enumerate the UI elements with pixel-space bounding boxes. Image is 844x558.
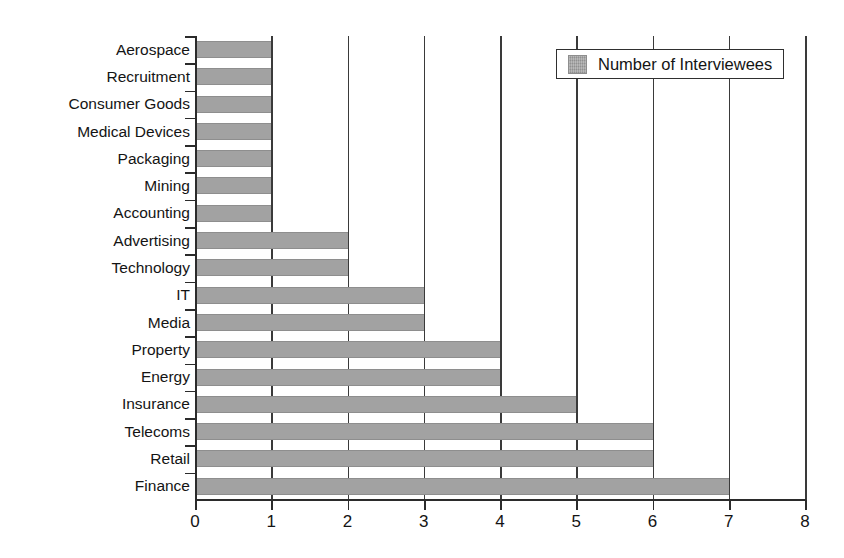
y-axis-label: Consumer Goods <box>20 96 190 112</box>
x-axis-tick <box>348 500 350 510</box>
y-axis-label: Aerospace <box>20 42 190 58</box>
bar-chart: AerospaceRecruitmentConsumer GoodsMedica… <box>0 0 844 558</box>
x-axis-tick-label: 1 <box>251 512 291 532</box>
y-axis-label: Finance <box>20 478 190 494</box>
chart-legend: Number of Interviewees <box>556 49 784 79</box>
y-axis-tick <box>185 364 196 366</box>
x-axis-tick-label: 5 <box>556 512 596 532</box>
y-axis-tick <box>185 473 196 475</box>
x-axis-tick <box>424 500 426 510</box>
y-axis-tick <box>185 391 196 393</box>
y-axis-tick <box>185 36 196 38</box>
bar-row <box>195 445 805 471</box>
y-axis-tick <box>185 282 196 284</box>
bar <box>195 450 653 467</box>
y-axis-label: Retail <box>20 451 190 467</box>
bar-row <box>195 282 805 308</box>
bar <box>195 205 271 222</box>
y-axis-tick <box>185 418 196 420</box>
y-axis-line <box>195 36 197 500</box>
legend-label: Number of Interviewees <box>598 55 772 74</box>
bar <box>195 96 271 113</box>
bar-row <box>195 200 805 226</box>
y-axis-label: Insurance <box>20 396 190 412</box>
x-axis-tick <box>500 500 502 510</box>
y-axis-label: Accounting <box>20 205 190 221</box>
bar-row <box>195 91 805 117</box>
y-axis-tick <box>185 336 196 338</box>
y-axis-tick <box>185 145 196 147</box>
x-axis-tick <box>271 500 273 510</box>
y-axis-tick <box>185 63 196 65</box>
y-axis-tick <box>185 91 196 93</box>
y-axis-tick <box>185 445 196 447</box>
x-axis-tick-label: 0 <box>175 512 215 532</box>
gridline-8 <box>805 36 807 500</box>
y-axis-label: Technology <box>20 260 190 276</box>
bar-row <box>195 227 805 253</box>
x-axis-tick-label: 7 <box>709 512 749 532</box>
bar <box>195 396 576 413</box>
y-axis-label: IT <box>20 287 190 303</box>
plot-area <box>195 36 805 500</box>
y-axis-label: Property <box>20 342 190 358</box>
bar <box>195 369 500 386</box>
bar <box>195 259 348 276</box>
x-axis-tick-label: 2 <box>328 512 368 532</box>
x-axis-tick <box>576 500 578 510</box>
bar-row <box>195 473 805 499</box>
bar <box>195 478 729 495</box>
bar <box>195 314 424 331</box>
bar <box>195 41 271 58</box>
x-axis-tick-label: 8 <box>785 512 825 532</box>
bar-row <box>195 309 805 335</box>
bar <box>195 232 348 249</box>
bar <box>195 123 271 140</box>
x-axis-tick <box>195 500 197 510</box>
y-axis-label: Packaging <box>20 151 190 167</box>
bar-row <box>195 364 805 390</box>
y-axis-label: Energy <box>20 369 190 385</box>
y-axis-label: Mining <box>20 178 190 194</box>
bar <box>195 68 271 85</box>
x-axis-tick-label: 6 <box>633 512 673 532</box>
y-axis-tick <box>185 227 196 229</box>
x-axis-tick <box>729 500 731 510</box>
y-axis-labels: AerospaceRecruitmentConsumer GoodsMedica… <box>8 36 190 500</box>
y-axis-tick <box>185 254 196 256</box>
y-axis-label: Recruitment <box>20 69 190 85</box>
bar-row <box>195 418 805 444</box>
y-axis-label: Telecoms <box>20 424 190 440</box>
legend-swatch-icon <box>568 55 587 74</box>
bar-row <box>195 254 805 280</box>
bar <box>195 177 271 194</box>
bar-row <box>195 172 805 198</box>
x-axis-tick-label: 3 <box>404 512 444 532</box>
y-axis-tick <box>185 172 196 174</box>
y-axis-tick <box>185 309 196 311</box>
bar <box>195 423 653 440</box>
x-axis-tick <box>805 500 807 510</box>
bar <box>195 341 500 358</box>
y-axis-label: Media <box>20 315 190 331</box>
y-axis-label: Medical Devices <box>20 124 190 140</box>
bar-row <box>195 145 805 171</box>
x-axis-tick-label: 4 <box>480 512 520 532</box>
bar <box>195 287 424 304</box>
bar <box>195 150 271 167</box>
y-axis-tick <box>185 118 196 120</box>
bar-row <box>195 391 805 417</box>
y-axis-tick <box>185 200 196 202</box>
x-axis-tick <box>653 500 655 510</box>
y-axis-label: Advertising <box>20 233 190 249</box>
bar-row <box>195 336 805 362</box>
bar-row <box>195 118 805 144</box>
